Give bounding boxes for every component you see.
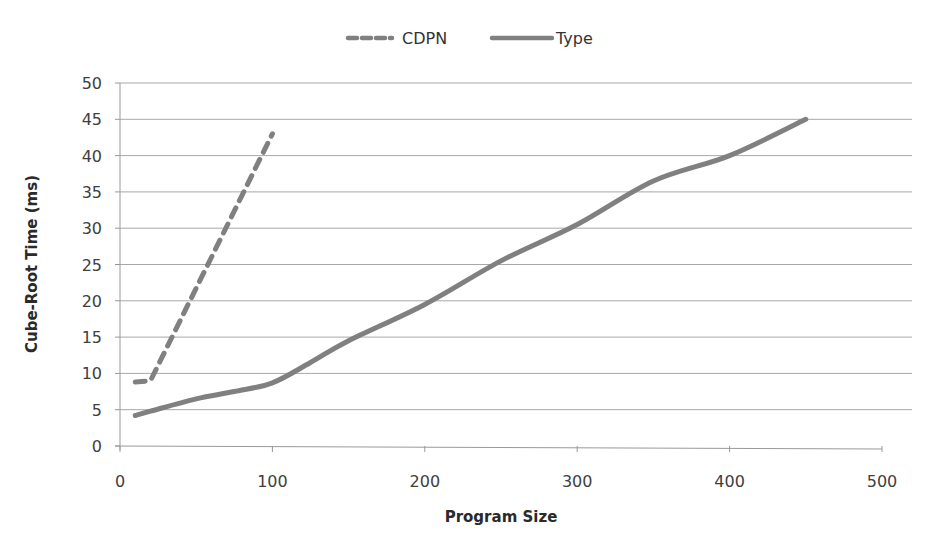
x-tick-label: 500 <box>867 472 898 491</box>
y-tick-label: 35 <box>82 183 102 202</box>
x-axis-tick-labels: 0100200300400500 <box>115 472 897 491</box>
x-axis-title: Program Size <box>445 508 558 526</box>
series-line-cdpn <box>135 134 272 382</box>
y-tick-label: 0 <box>92 437 102 456</box>
x-tick-label: 300 <box>562 472 593 491</box>
y-tick-label: 30 <box>82 219 102 238</box>
y-axis-title: Cube-Root Time (ms) <box>23 175 41 353</box>
legend: CDPN Type <box>348 29 593 48</box>
x-axis-line <box>115 446 882 449</box>
y-tick-label: 25 <box>82 256 102 275</box>
x-tick-label: 200 <box>410 472 441 491</box>
y-tick-label: 40 <box>82 147 102 166</box>
x-tick-label: 100 <box>257 472 288 491</box>
x-tick-label: 400 <box>714 472 745 491</box>
series-line-type <box>135 119 806 415</box>
y-tick-label: 10 <box>82 364 102 383</box>
y-tick-label: 45 <box>82 110 102 129</box>
y-tick-label: 15 <box>82 328 102 347</box>
legend-label-cdpn: CDPN <box>402 29 447 48</box>
y-tick-label: 20 <box>82 292 102 311</box>
data-series <box>135 119 806 415</box>
legend-item-cdpn: CDPN <box>348 29 447 48</box>
y-tick-label: 5 <box>92 401 102 420</box>
legend-item-type: Type <box>492 29 593 48</box>
x-tick-label: 0 <box>115 472 125 491</box>
y-axis-tick-labels: 05101520253035404550 <box>82 74 102 456</box>
y-tick-label: 50 <box>82 74 102 93</box>
line-chart: 05101520253035404550 0100200300400500 Pr… <box>0 0 943 557</box>
legend-label-type: Type <box>555 29 593 48</box>
gridlines <box>120 83 912 410</box>
